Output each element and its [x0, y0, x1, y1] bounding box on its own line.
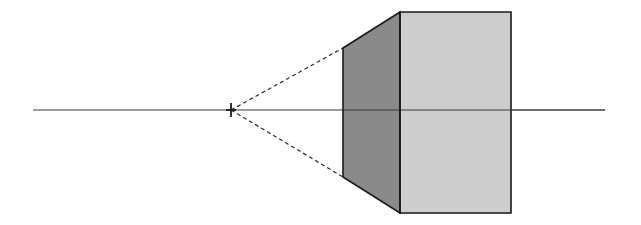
vanishing-point-marker — [226, 103, 236, 117]
cube-side-face — [343, 12, 400, 213]
perspective-svg-canvas — [0, 0, 641, 225]
cube-front-face — [400, 12, 511, 213]
perspective-diagram — [0, 0, 641, 225]
lower-receding-line-construction-line — [231, 110, 343, 177]
upper-receding-line-construction-line — [231, 48, 343, 110]
